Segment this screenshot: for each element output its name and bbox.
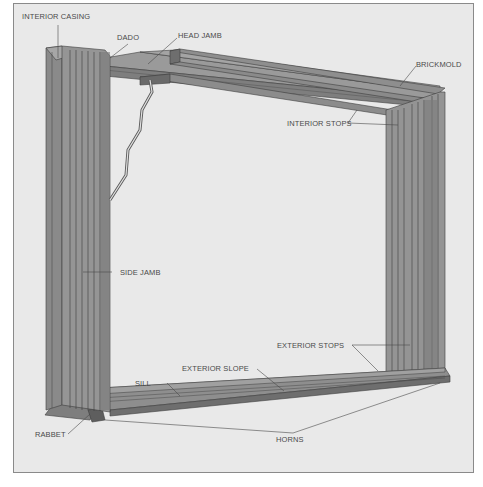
label-interior-stops: INTERIOR STOPS — [287, 120, 352, 128]
label-exterior-slope: EXTERIOR SLOPE — [182, 365, 249, 373]
label-exterior-stops: EXTERIOR STOPS — [277, 342, 344, 350]
label-dado: DADO — [117, 34, 139, 42]
sash-spring — [110, 80, 152, 200]
label-side-jamb: SIDE JAMB — [120, 269, 161, 277]
label-interior-casing: INTERIOR CASING — [22, 13, 90, 21]
label-head-jamb: HEAD JAMB — [178, 32, 222, 40]
right-side-jamb — [386, 92, 445, 375]
window-frame-illustration — [0, 0, 483, 487]
label-rabbet: RABBET — [35, 431, 66, 439]
label-sill: SILL — [135, 380, 151, 388]
label-horns: HORNS — [276, 436, 304, 444]
left-side-jamb — [62, 46, 110, 412]
sill — [95, 368, 450, 416]
label-brickmold: BRICKMOLD — [416, 61, 462, 69]
